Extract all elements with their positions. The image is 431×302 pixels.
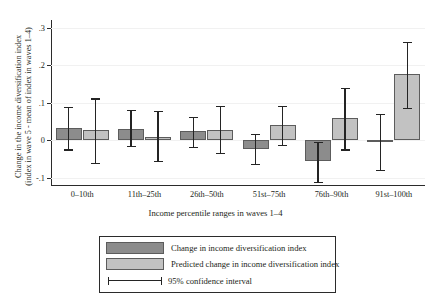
gridline bbox=[51, 178, 425, 179]
legend-item-observed: Change in income diversification index bbox=[106, 240, 307, 255]
error-bar-cap bbox=[216, 106, 225, 107]
legend-label-observed: Change in income diversification index bbox=[171, 243, 307, 253]
error-bar-line bbox=[220, 106, 221, 153]
error-bar-cap bbox=[189, 147, 198, 148]
error-bar-line bbox=[130, 110, 131, 146]
x-category-label: 26th–50th bbox=[190, 190, 224, 199]
y-tick-mark bbox=[47, 28, 51, 29]
error-bar-line bbox=[255, 134, 256, 164]
figure-container: Change in the income diversification ind… bbox=[0, 0, 431, 302]
error-bar-cap bbox=[278, 106, 287, 107]
x-axis-title: Income percentile ranges in waves 1–4 bbox=[0, 208, 431, 218]
error-bar-cap bbox=[314, 182, 323, 183]
legend-label-confidence-interval: 95% confidence interval bbox=[168, 276, 252, 286]
error-bar-cap bbox=[403, 108, 412, 109]
error-bar-cap bbox=[341, 88, 350, 89]
error-bar-line bbox=[407, 42, 408, 108]
error-bar-line bbox=[157, 111, 158, 161]
y-axis-title: Change in the income diversification ind… bbox=[14, 11, 35, 201]
x-category-label: 76th–90th bbox=[315, 190, 349, 199]
x-category-label: 11th–25th bbox=[128, 190, 161, 199]
error-bar-cap bbox=[376, 114, 385, 115]
error-bar-cap bbox=[216, 153, 225, 154]
error-bar-cap bbox=[341, 149, 350, 150]
y-tick-mark bbox=[47, 103, 51, 104]
top-caption-fragment bbox=[36, 0, 256, 3]
legend-swatch-observed bbox=[106, 242, 164, 254]
y-tick-mark bbox=[47, 65, 51, 66]
error-bar-line bbox=[282, 106, 283, 145]
error-bar-cap bbox=[91, 98, 100, 99]
error-bar-cap bbox=[127, 110, 136, 111]
x-category-label: 0–10th bbox=[71, 190, 94, 199]
y-tick-mark bbox=[47, 178, 51, 179]
legend-label-predicted: Predicted change in income diversificati… bbox=[171, 259, 339, 269]
y-axis-title-line1: Change in the income diversification ind… bbox=[14, 11, 24, 201]
legend-swatch-predicted bbox=[106, 258, 164, 270]
error-bar-line bbox=[317, 142, 318, 182]
error-bar-line bbox=[344, 88, 345, 150]
y-tick-label: -.1 bbox=[36, 173, 45, 182]
error-bar-cap bbox=[64, 107, 73, 108]
legend-box: Change in income diversification index P… bbox=[99, 236, 336, 293]
error-bar-cap bbox=[154, 111, 163, 112]
x-category-label: 51st–75th bbox=[253, 190, 286, 199]
error-bar-cap bbox=[251, 134, 260, 135]
x-axis-line bbox=[51, 185, 425, 186]
error-bar-cap bbox=[127, 146, 136, 147]
error-bar-cap bbox=[314, 142, 323, 143]
y-tick-label: 0 bbox=[41, 136, 45, 145]
gridline bbox=[51, 28, 425, 29]
y-axis-title-line2: (index in wave 5 - mean of index in wave… bbox=[24, 11, 34, 201]
error-bar-cap bbox=[189, 117, 198, 118]
gridline bbox=[51, 65, 425, 66]
y-tick-mark bbox=[47, 140, 51, 141]
error-bar-cap bbox=[403, 42, 412, 43]
plot-area: .3.2.10-.1 0–10th11th–25th26th–50th51st–… bbox=[51, 20, 425, 185]
legend-errorbar-icon bbox=[106, 275, 164, 287]
legend-item-predicted: Predicted change in income diversificati… bbox=[106, 256, 339, 271]
y-tick-label: .3 bbox=[39, 23, 45, 32]
error-bar-line bbox=[68, 107, 69, 149]
x-category-label: 91st–100th bbox=[375, 190, 412, 199]
error-bar-cap bbox=[64, 149, 73, 150]
gridline bbox=[51, 103, 425, 104]
y-tick-label: .1 bbox=[39, 98, 45, 107]
y-tick-label: .2 bbox=[39, 61, 45, 70]
error-bar-cap bbox=[91, 163, 100, 164]
error-bar-line bbox=[193, 117, 194, 147]
error-bar-line bbox=[95, 98, 96, 162]
error-bar-cap bbox=[278, 145, 287, 146]
legend-item-confidence-interval: 95% confidence interval bbox=[106, 273, 252, 288]
error-bar-line bbox=[380, 114, 381, 170]
error-bar-cap bbox=[154, 161, 163, 162]
error-bar-cap bbox=[251, 164, 260, 165]
error-bar-cap bbox=[376, 170, 385, 171]
